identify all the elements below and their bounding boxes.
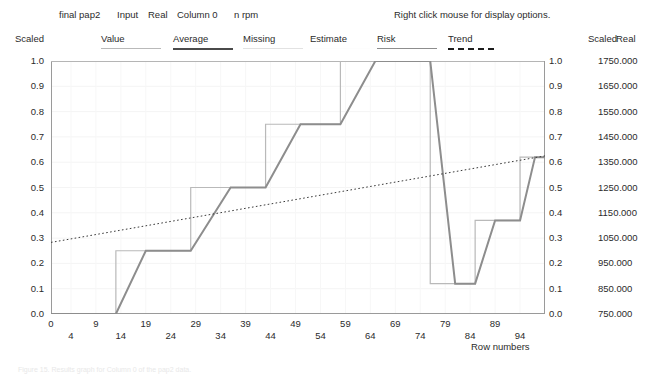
legend-swatch-trend <box>448 48 494 50</box>
legend-swatch-estimate <box>310 48 370 49</box>
legend-item-estimate-label: Estimate <box>310 33 370 45</box>
y-tick-right-real: 1150.000 <box>598 208 658 218</box>
y-tick-right-scaled: 0.5 <box>549 183 579 193</box>
x-tick-label: 54 <box>307 331 333 341</box>
y-tick-left: 0.1 <box>14 284 44 294</box>
x-tick-label: 94 <box>507 331 533 341</box>
x-axis-title: Row numbers <box>471 341 530 352</box>
legend-item-trend-label: Trend <box>448 33 494 45</box>
display-options-hint: Right click mouse for display options. <box>394 8 550 22</box>
legend-real-right-label: Real <box>616 33 636 45</box>
header-unit: n rpm <box>234 8 258 22</box>
y-tick-left: 0.7 <box>14 132 44 142</box>
x-tick-label: 84 <box>457 331 483 341</box>
legend-swatch-risk <box>377 48 437 49</box>
y-tick-right-scaled: 0.8 <box>549 107 579 117</box>
x-tick-label: 34 <box>208 331 234 341</box>
header-input: Input <box>117 8 138 22</box>
y-tick-left: 0.6 <box>14 157 44 167</box>
legend-item-value[interactable]: Value <box>101 33 161 49</box>
y-tick-left: 0.8 <box>14 107 44 117</box>
legend-item-value-label: Value <box>101 33 161 45</box>
y-tick-right-real: 1450.000 <box>598 132 658 142</box>
y-tick-right-scaled: 0.2 <box>549 258 579 268</box>
y-tick-left: 0.5 <box>14 183 44 193</box>
header-real: Real <box>148 8 168 22</box>
y-tick-right-scaled: 0.1 <box>549 284 579 294</box>
x-tick-label: 49 <box>283 319 309 329</box>
chart-window: final pap2 Input Real Column 0 n rpm Rig… <box>0 0 661 377</box>
legend-swatch-missing <box>243 48 303 49</box>
legend-scaled-right: Scaled <box>588 33 617 45</box>
x-tick-label: 69 <box>382 319 408 329</box>
y-tick-left: 0.0 <box>14 309 44 319</box>
header-column: Column 0 <box>177 8 218 22</box>
x-tick-label: 89 <box>482 319 508 329</box>
x-tick-label: 44 <box>258 331 284 341</box>
x-tick-label: 0 <box>38 319 64 329</box>
dataset-title: final pap2 <box>59 8 100 22</box>
x-tick-label: 14 <box>108 331 134 341</box>
y-tick-right-scaled: 0.3 <box>549 233 579 243</box>
y-tick-left: 1.0 <box>14 56 44 66</box>
legend-item-estimate[interactable]: Estimate <box>310 33 370 49</box>
legend-item-risk-label: Risk <box>377 33 437 45</box>
x-tick-label: 4 <box>58 331 84 341</box>
y-tick-left: 0.3 <box>14 233 44 243</box>
legend-scaled-left-label: Scaled <box>15 33 44 45</box>
y-tick-right-real: 1750.000 <box>598 56 658 66</box>
legend-item-average-label: Average <box>173 33 233 45</box>
y-tick-right-real: 850.000 <box>598 284 658 294</box>
header-row: final pap2 Input Real Column 0 n rpm Rig… <box>0 8 661 22</box>
x-tick-label: 24 <box>158 331 184 341</box>
x-tick-label: 19 <box>133 319 159 329</box>
y-tick-right-real: 1250.000 <box>598 183 658 193</box>
x-tick-label: 9 <box>83 319 109 329</box>
legend-swatch-average <box>173 48 233 50</box>
series-trend <box>51 156 545 243</box>
legend-item-missing-label: Missing <box>243 33 303 45</box>
legend-scaled-right-label: Scaled <box>588 33 617 45</box>
legend-item-risk[interactable]: Risk <box>377 33 437 49</box>
x-tick-label: 64 <box>357 331 383 341</box>
y-tick-right-scaled: 0.7 <box>549 132 579 142</box>
figure-caption: Figure 15. Results graph for Column 0 of… <box>18 366 191 373</box>
y-tick-right-scaled: 0.4 <box>549 208 579 218</box>
chart-canvas <box>51 61 545 314</box>
y-tick-left: 0.2 <box>14 258 44 268</box>
y-tick-right-real: 1050.000 <box>598 233 658 243</box>
x-tick-label: 74 <box>407 331 433 341</box>
y-tick-left: 0.4 <box>14 208 44 218</box>
y-tick-right-real: 1650.000 <box>598 81 658 91</box>
legend: Scaled Value Average Missing Estimate Ri… <box>0 33 661 55</box>
y-tick-right-scaled: 0.6 <box>549 157 579 167</box>
grid-lines <box>51 61 545 314</box>
x-tick-label: 39 <box>233 319 259 329</box>
legend-item-average[interactable]: Average <box>173 33 233 50</box>
x-tick-label: 29 <box>183 319 209 329</box>
legend-item-missing[interactable]: Missing <box>243 33 303 49</box>
legend-swatch-value <box>101 48 161 49</box>
plot-area[interactable] <box>51 61 545 314</box>
x-tick-label: 79 <box>432 319 458 329</box>
y-tick-right-scaled: 1.0 <box>549 56 579 66</box>
y-tick-right-real: 1550.000 <box>598 107 658 117</box>
y-tick-right-real: 950.000 <box>598 258 658 268</box>
legend-real-right: Real <box>616 33 636 45</box>
y-tick-left: 0.9 <box>14 81 44 91</box>
y-tick-right-real: 1350.000 <box>598 157 658 167</box>
legend-scaled-left: Scaled <box>15 33 44 45</box>
legend-item-trend[interactable]: Trend <box>448 33 494 50</box>
y-tick-right-scaled: 0.9 <box>549 81 579 91</box>
x-tick-label: 59 <box>332 319 358 329</box>
y-tick-right-scaled: 0.0 <box>549 309 579 319</box>
y-tick-right-real: 750.000 <box>598 309 658 319</box>
